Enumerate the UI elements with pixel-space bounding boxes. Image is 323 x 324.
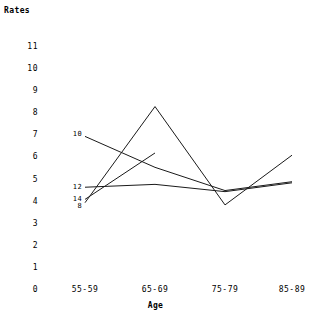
series-label-14: 14 — [73, 196, 82, 203]
x-axis-tick-55-59: 55-59 — [72, 286, 99, 294]
line-chart: Rates 01234567891011 1081214 55-5965-697… — [0, 0, 323, 324]
x-axis-tick-75-79: 75-79 — [212, 286, 239, 294]
x-axis-tick-65-69: 65-69 — [142, 286, 169, 294]
series-line-8 — [85, 107, 292, 205]
series-lines — [85, 107, 292, 205]
x-axis-tick-85-89: 85-89 — [279, 286, 306, 294]
plot-area — [0, 0, 323, 324]
series-label-12: 12 — [73, 184, 82, 191]
series-line-10 — [85, 136, 292, 190]
series-label-10: 10 — [73, 131, 82, 138]
x-axis-title-text: Age — [148, 301, 164, 310]
series-line-12 — [85, 183, 292, 192]
series-label-8: 8 — [77, 203, 82, 210]
series-line-14 — [85, 153, 155, 199]
x-axis-title: Age — [0, 301, 323, 310]
